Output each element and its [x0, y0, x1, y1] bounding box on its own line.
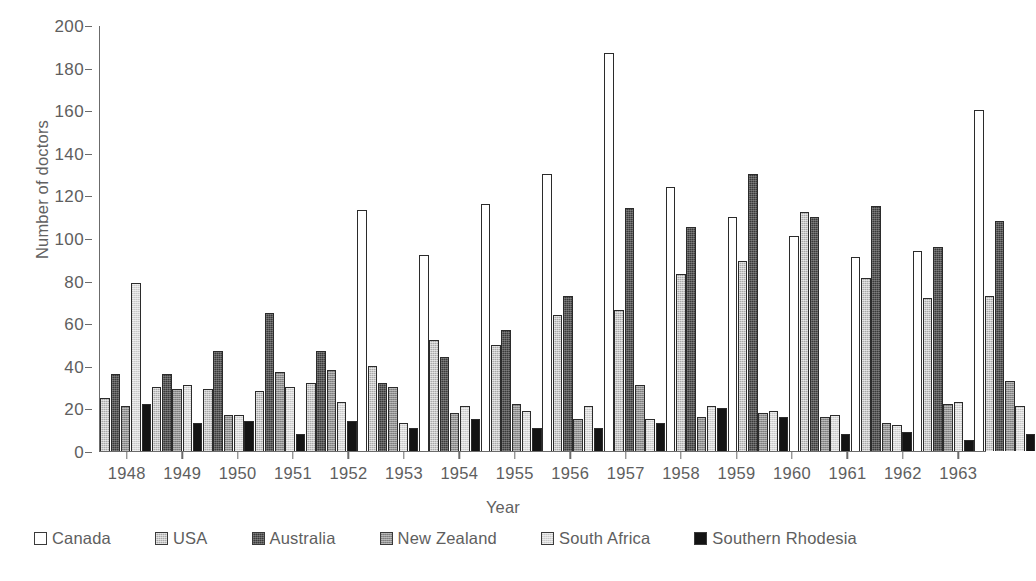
bar	[306, 383, 316, 451]
bar	[162, 374, 172, 451]
bar-group	[604, 26, 666, 451]
x-tick-mark	[126, 452, 127, 459]
x-tick: 1949	[154, 452, 209, 500]
bar	[378, 383, 388, 451]
x-tick-label: 1948	[99, 464, 154, 483]
legend-swatch-icon	[541, 532, 554, 545]
bar	[820, 417, 830, 451]
x-tick: 1952	[321, 452, 376, 500]
x-tick-label: 1962	[875, 464, 930, 483]
legend-item-usa[interactable]: USA	[155, 529, 208, 548]
bar	[142, 404, 152, 451]
y-tick-label: 60	[64, 316, 84, 333]
bar	[594, 428, 604, 451]
x-tick-mark	[181, 452, 182, 459]
bar	[131, 283, 141, 451]
x-tick-mark	[847, 452, 848, 459]
bar	[728, 217, 738, 451]
bar	[285, 387, 295, 451]
x-axis-title: Year	[0, 498, 1006, 517]
bar-group	[357, 26, 419, 451]
y-tick-mark	[85, 452, 92, 453]
bar-group	[542, 26, 604, 451]
bar	[902, 432, 912, 451]
x-tick-mark	[403, 452, 404, 459]
legend-item-south-africa[interactable]: South Africa	[541, 529, 650, 548]
bar-group	[851, 26, 913, 451]
legend-item-canada[interactable]: Canada	[34, 529, 111, 548]
x-tick-label: 1950	[210, 464, 265, 483]
x-tick: 1954	[432, 452, 487, 500]
y-tick-mark	[85, 239, 92, 240]
bar	[553, 315, 563, 451]
bar	[892, 425, 902, 451]
bar-group	[727, 26, 789, 451]
legend-item-new-zealand[interactable]: New Zealand	[380, 529, 497, 548]
bar	[954, 402, 964, 451]
x-tick-label: 1949	[154, 464, 209, 483]
legend-item-southern-rhodesia[interactable]: Southern Rhodesia	[694, 529, 857, 548]
y-tick-mark	[85, 409, 92, 410]
x-tick-label: 1955	[487, 464, 542, 483]
bar	[645, 419, 655, 451]
bar	[800, 212, 810, 451]
x-tick-label: 1961	[820, 464, 875, 483]
bar	[347, 421, 357, 451]
bar	[172, 389, 182, 451]
bar	[193, 423, 203, 451]
bar	[789, 236, 799, 451]
bar	[985, 296, 995, 451]
bar	[501, 330, 511, 451]
bar-group	[974, 26, 1036, 451]
y-axis-tick-labels: 020406080100120140160180200	[30, 0, 92, 470]
chart-legend: CanadaUSAAustraliaNew ZealandSouth Afric…	[34, 529, 986, 548]
bar	[625, 208, 635, 451]
bar	[614, 310, 624, 451]
x-tick-label: 1958	[653, 464, 708, 483]
x-tick-mark	[514, 452, 515, 459]
x-tick-mark	[459, 452, 460, 459]
bar	[769, 411, 779, 451]
legend-label: Australia	[270, 529, 336, 548]
bar	[738, 261, 748, 451]
bar	[1015, 406, 1025, 451]
bar-group	[419, 26, 481, 451]
bar	[841, 434, 851, 451]
bar	[224, 415, 234, 451]
bar	[851, 257, 861, 451]
bar	[327, 370, 337, 451]
x-tick: 1951	[265, 452, 320, 500]
x-tick-label: 1963	[931, 464, 986, 483]
x-tick-mark	[570, 452, 571, 459]
bar	[923, 298, 933, 451]
bar	[532, 428, 542, 451]
bar	[676, 274, 686, 451]
x-tick: 1960	[764, 452, 819, 500]
bar	[573, 419, 583, 451]
legend-label: New Zealand	[398, 529, 497, 548]
bar	[656, 423, 666, 451]
x-tick: 1962	[875, 452, 930, 500]
x-tick-mark	[680, 452, 681, 459]
bar-group	[254, 26, 305, 451]
legend-label: South Africa	[559, 529, 650, 548]
x-tick-label: 1960	[764, 464, 819, 483]
bar	[830, 415, 840, 451]
bar	[604, 53, 614, 451]
x-tick: 1957	[598, 452, 653, 500]
x-tick-mark	[292, 452, 293, 459]
bar	[686, 227, 696, 451]
bar	[213, 351, 223, 451]
bar	[933, 247, 943, 451]
bar	[748, 174, 758, 451]
x-tick: 1959	[709, 452, 764, 500]
plot-area	[99, 26, 986, 452]
legend-item-australia[interactable]: Australia	[252, 529, 336, 548]
bar	[871, 206, 881, 451]
bar	[460, 406, 470, 451]
y-tick-label: 200	[54, 18, 84, 35]
bar	[666, 187, 676, 451]
x-tick: 1948	[99, 452, 154, 500]
bar	[943, 404, 953, 451]
bar	[316, 351, 326, 451]
